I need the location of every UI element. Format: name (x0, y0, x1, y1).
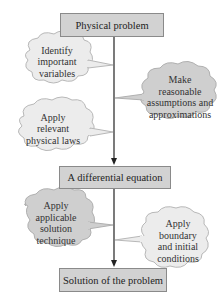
cloud-line: reasonable (147, 86, 213, 98)
cloud-identify-variables: Identify important variables (24, 42, 90, 82)
box-solution: Solution of the problem (59, 268, 167, 292)
cloud-line: technique (35, 235, 76, 247)
cloud-apply-conditions: Apply boundary and initial conditions (143, 215, 213, 267)
cloud-line: assumptions and (147, 97, 213, 109)
cloud-line: Make (147, 74, 213, 86)
cloud-line: physical laws (26, 135, 80, 147)
cloud-line: conditions (157, 253, 199, 265)
flowchart-diagram: Physical problem A differential equation… (0, 0, 222, 307)
cloud-apply-laws: Apply relevant physical laws (14, 108, 92, 150)
arrowhead-top-icon (111, 158, 117, 165)
cloud-line: Apply (157, 218, 199, 230)
box-physical-problem: Physical problem (60, 13, 164, 37)
cloud-line: boundary (157, 230, 199, 242)
cloud-make-assumptions: Make reasonable assumptions and approxim… (140, 72, 220, 122)
cloud-line: relevant (26, 123, 80, 135)
box-differential-equation: A differential equation (59, 166, 171, 189)
cloud-line: and initial (157, 241, 199, 253)
arrowhead-bottom-icon (111, 260, 117, 267)
cloud-line: variables (38, 68, 77, 80)
cloud-line: applicable (35, 212, 76, 224)
cloud-line: important (38, 56, 77, 68)
cloud-apply-technique: Apply applicable solution technique (22, 197, 90, 249)
cloud-line: Apply (35, 200, 76, 212)
cloud-line: Identify (38, 45, 77, 57)
cloud-line: solution (35, 223, 76, 235)
cloud-line: approximations (147, 109, 213, 121)
cloud-line: Apply (26, 112, 80, 124)
